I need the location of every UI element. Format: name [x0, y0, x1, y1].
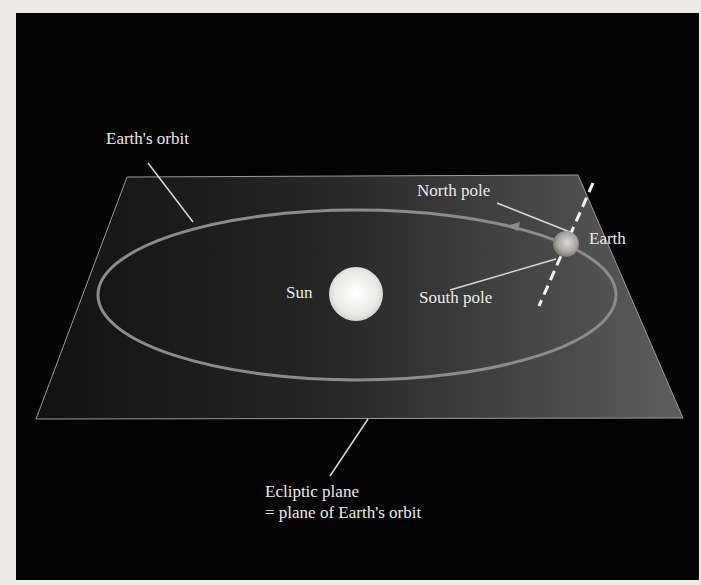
sun — [329, 267, 383, 321]
label-ecliptic-definition: = plane of Earth's orbit — [265, 503, 421, 523]
label-ecliptic-plane: Ecliptic plane — [265, 482, 359, 502]
label-earth: Earth — [589, 229, 626, 249]
label-north-pole: North pole — [417, 181, 490, 201]
earth — [553, 231, 579, 257]
label-earths-orbit: Earth's orbit — [106, 129, 189, 149]
label-south-pole: South pole — [419, 288, 492, 308]
leader-ecliptic-plane — [330, 419, 368, 476]
label-sun: Sun — [286, 283, 312, 303]
